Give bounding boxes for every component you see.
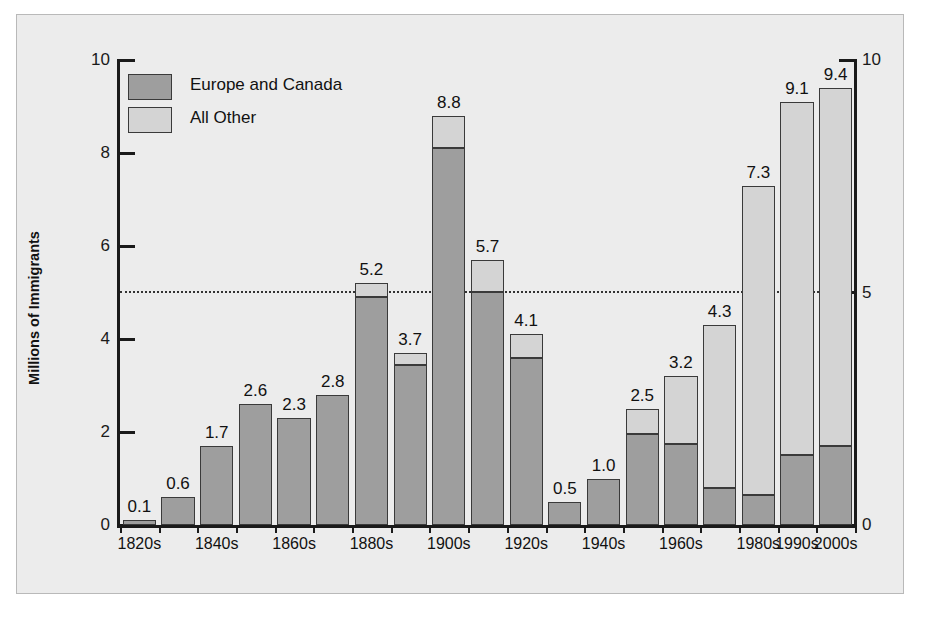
bar-1820s[interactable]	[123, 520, 156, 525]
bar-value-label-1920s: 4.1	[491, 312, 561, 329]
bar-segment-all-other-1980s	[742, 186, 775, 495]
x-tick-2	[197, 526, 199, 533]
legend-label-all-other: All Other	[190, 108, 256, 128]
x-tick-6	[352, 526, 354, 533]
chart-plot-area: Millions of Immigrants 0246810 0510 0.10…	[0, 0, 931, 624]
bar-1910s[interactable]	[471, 260, 504, 525]
bar-segment-all-other-1970s	[703, 325, 736, 488]
bar-segment-europe-canada-1840s	[200, 446, 233, 525]
y-tick-right-10	[839, 59, 857, 62]
x-tick-1	[159, 526, 161, 533]
bar-segment-all-other-1990s	[780, 102, 813, 455]
bar-1940s[interactable]	[587, 479, 620, 526]
bar-segment-all-other-1960s	[664, 376, 697, 443]
y-tick-label-right-0: 0	[862, 516, 902, 533]
bar-segment-europe-canada-1870s	[316, 395, 349, 525]
bar-1860s[interactable]	[277, 418, 310, 525]
bar-1990s[interactable]	[780, 102, 813, 525]
bar-segment-europe-canada-1920s	[510, 358, 543, 525]
x-tick-3	[236, 526, 238, 533]
bar-1850s[interactable]	[239, 404, 272, 525]
x-tick-4	[275, 526, 277, 533]
bar-segment-all-other-1950s	[626, 409, 659, 435]
bar-segment-europe-canada-1830s	[161, 497, 194, 525]
x-tick-19	[855, 526, 857, 533]
y-tick-left-6	[117, 245, 135, 248]
bar-value-label-2000s: 9.4	[801, 66, 871, 83]
bar-1930s[interactable]	[548, 502, 581, 525]
figure-root: Millions of Immigrants 0246810 0510 0.10…	[0, 0, 931, 624]
bar-value-label-1900s: 8.8	[414, 94, 484, 111]
bar-value-label-1880s: 5.2	[336, 261, 406, 278]
bar-1830s[interactable]	[161, 497, 194, 525]
bar-1970s[interactable]	[703, 325, 736, 525]
bar-segment-europe-canada-1990s	[780, 455, 813, 525]
bar-segment-europe-canada-1950s	[626, 434, 659, 525]
x-tick-17	[778, 526, 780, 533]
x-tick-8	[429, 526, 431, 533]
y-tick-left-8	[117, 152, 135, 155]
bar-segment-europe-canada-1980s	[742, 495, 775, 525]
x-tick-13	[623, 526, 625, 533]
bar-segment-europe-canada-1890s	[394, 365, 427, 525]
x-axis-label-2000s: 2000s	[791, 535, 881, 553]
bar-2000s[interactable]	[819, 88, 852, 525]
bar-1950s[interactable]	[626, 409, 659, 525]
y-tick-label-left-2: 2	[76, 423, 110, 440]
x-tick-9	[468, 526, 470, 533]
bar-segment-europe-canada-1930s	[548, 502, 581, 525]
bar-segment-all-other-2000s	[819, 88, 852, 446]
x-tick-11	[546, 526, 548, 533]
y-tick-label-left-6: 6	[76, 237, 110, 254]
bar-segment-all-other-1880s	[355, 283, 388, 297]
legend-swatch-all-other	[128, 107, 172, 133]
bar-segment-all-other-1920s	[510, 334, 543, 357]
bar-1890s[interactable]	[394, 353, 427, 525]
y-tick-label-left-10: 10	[76, 51, 110, 68]
bar-1840s[interactable]	[200, 446, 233, 525]
x-tick-18	[816, 526, 818, 533]
legend-swatch-europe-and-canada	[128, 74, 172, 100]
y-tick-left-10	[117, 59, 135, 62]
x-tick-7	[391, 526, 393, 533]
x-axis-baseline	[117, 525, 857, 528]
bar-segment-all-other-1890s	[394, 353, 427, 365]
bar-1880s[interactable]	[355, 283, 388, 525]
x-tick-14	[662, 526, 664, 533]
y-tick-label-left-0: 0	[76, 516, 110, 533]
bar-segment-europe-canada-1860s	[277, 418, 310, 525]
y-axis-title: Millions of Immigrants	[26, 208, 42, 408]
bar-1870s[interactable]	[316, 395, 349, 525]
bar-segment-europe-canada-1960s	[664, 444, 697, 525]
y-tick-left-2	[117, 431, 135, 434]
bar-segment-europe-canada-1970s	[703, 488, 736, 525]
bar-1960s[interactable]	[664, 376, 697, 525]
y-tick-label-right-5: 5	[862, 284, 902, 301]
bar-segment-europe-canada-1900s	[432, 148, 465, 525]
x-tick-16	[739, 526, 741, 533]
y-tick-left-4	[117, 338, 135, 341]
bar-segment-all-other-1900s	[432, 116, 465, 149]
bar-segment-europe-canada-1850s	[239, 404, 272, 525]
bar-segment-europe-canada-1820s	[123, 520, 156, 525]
y-axis-left-line	[117, 59, 120, 528]
bar-1980s[interactable]	[742, 186, 775, 525]
x-tick-12	[584, 526, 586, 533]
bar-value-label-1910s: 5.7	[453, 238, 523, 255]
bar-segment-all-other-1910s	[471, 260, 504, 293]
x-tick-15	[700, 526, 702, 533]
legend-label-europe-and-canada: Europe and Canada	[190, 75, 342, 95]
bar-segment-europe-canada-2000s	[819, 446, 852, 525]
bar-segment-europe-canada-1940s	[587, 479, 620, 526]
y-tick-label-left-4: 4	[76, 330, 110, 347]
bar-1900s[interactable]	[432, 116, 465, 525]
y-tick-label-left-8: 8	[76, 144, 110, 161]
x-tick-0	[120, 526, 122, 533]
x-tick-10	[507, 526, 509, 533]
x-tick-5	[313, 526, 315, 533]
